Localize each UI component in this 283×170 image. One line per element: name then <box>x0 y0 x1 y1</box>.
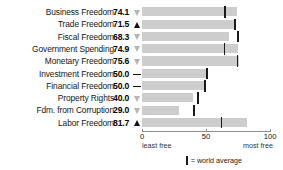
category-value: 50.0 <box>103 80 129 92</box>
world-average-tick <box>234 19 236 31</box>
world-average-tick <box>204 80 206 92</box>
category-value: 68.3 <box>103 31 129 43</box>
category-value: 75.6 <box>103 55 129 67</box>
trend-glyph <box>134 22 140 28</box>
trend-glyph <box>134 34 140 40</box>
world-average-tick <box>197 92 199 104</box>
trend-glyph <box>134 108 140 114</box>
plot-area <box>142 6 270 129</box>
axis-tick-label: 100 <box>264 133 277 141</box>
category-value: 74.9 <box>103 43 129 55</box>
category-label: Government Spending <box>32 43 114 55</box>
value-bar <box>142 56 239 65</box>
value-bar <box>142 118 247 127</box>
value-bar <box>142 32 229 41</box>
category-value: 40.0 <box>103 92 129 104</box>
world-average-tick <box>206 68 208 80</box>
freedom-index-chart: Business Freedom74.1Trade Freedom71.5Fis… <box>0 0 283 170</box>
value-bar <box>142 93 193 102</box>
trend-glyph <box>133 74 141 76</box>
category-value: 74.1 <box>103 6 129 18</box>
world-average-tick <box>221 117 223 129</box>
world-average-tick-icon <box>186 156 188 165</box>
world-average-tick <box>224 6 226 18</box>
trend-glyph <box>134 120 140 126</box>
world-average-tick <box>237 31 239 43</box>
trend-glyph <box>133 86 141 88</box>
axis-least-free-label: least free <box>142 142 172 150</box>
trend-glyph <box>134 46 140 52</box>
value-bar <box>142 69 206 78</box>
legend: = world average <box>186 150 242 161</box>
trend-glyph <box>134 96 140 102</box>
category-value: 50.0 <box>103 68 129 80</box>
value-bar <box>142 106 179 115</box>
axis-tick-label: 0 <box>140 133 144 141</box>
value-bar <box>142 7 237 16</box>
trend-glyph <box>134 10 140 16</box>
world-average-tick <box>224 43 226 55</box>
world-average-tick <box>237 55 239 67</box>
axis-tick-label: 50 <box>202 133 210 141</box>
legend-label: = world average <box>191 156 242 165</box>
value-bar <box>142 81 206 90</box>
category-value: 29.0 <box>103 104 129 116</box>
trend-glyph <box>134 59 140 65</box>
value-bar <box>142 20 234 29</box>
category-value: 71.5 <box>103 18 129 30</box>
axis-most-free-label: most free <box>243 142 273 150</box>
world-average-tick <box>193 105 195 117</box>
category-value: 81.7 <box>103 117 129 129</box>
